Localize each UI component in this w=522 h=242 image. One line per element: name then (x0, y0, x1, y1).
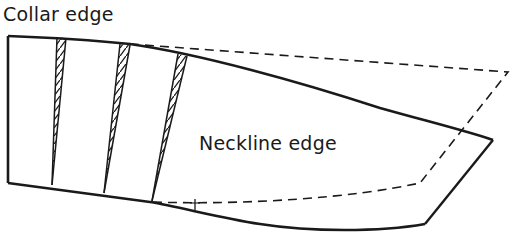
neckline-edge-label: Neckline edge (199, 132, 337, 154)
outer-edge-line (425, 140, 493, 224)
collar-pattern-diagram (0, 0, 522, 242)
neckline-edge-line (8, 183, 425, 230)
collar-edge-line (8, 36, 493, 140)
slash-strip-3 (152, 54, 187, 201)
slash-strip-2 (104, 44, 130, 193)
collar-edge-label: Collar edge (3, 3, 114, 25)
spread-pattern-outline (130, 44, 508, 203)
slash-strip-1 (52, 37, 66, 185)
